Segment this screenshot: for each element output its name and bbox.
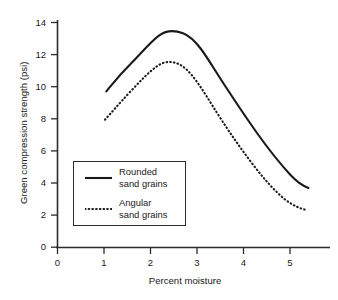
legend-label-angular: Angular sand grains — [119, 197, 167, 220]
chart-canvas — [0, 0, 338, 300]
legend-label-rounded-line2: sand grains — [119, 178, 167, 189]
x-tick-label: 2 — [142, 258, 160, 268]
legend-entry-rounded: Rounded sand grains — [74, 164, 187, 194]
y-axis-title: Green compression strength (psi) — [19, 18, 29, 248]
solid-line-sample-icon — [85, 176, 112, 179]
x-axis-ticks — [58, 248, 291, 255]
x-axis-title: Percent moisture — [57, 276, 313, 286]
y-axis-ticks — [51, 23, 58, 248]
x-tick-label: 4 — [235, 258, 253, 268]
legend-label-rounded-line1: Rounded — [119, 166, 157, 177]
chart-legend: Rounded sand grains Angular sand grains — [73, 161, 186, 226]
dotted-line-sample-icon — [85, 207, 112, 210]
x-tick-label: 1 — [95, 258, 113, 268]
legend-label-angular-line1: Angular — [119, 197, 151, 208]
legend-label-angular-line2: sand grains — [119, 209, 167, 220]
x-tick-label: 5 — [281, 258, 299, 268]
x-tick-label: 3 — [188, 258, 206, 268]
chart-figure: 14 12 10 8 6 4 2 0 0 1 2 3 4 5 Green com… — [0, 0, 338, 300]
legend-label-rounded: Rounded sand grains — [119, 166, 167, 189]
x-tick-label: 0 — [49, 258, 67, 268]
legend-entry-angular: Angular sand grains — [74, 195, 187, 225]
